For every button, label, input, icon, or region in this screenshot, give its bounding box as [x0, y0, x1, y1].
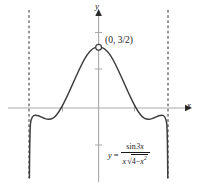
radicand: 4−x2	[131, 154, 147, 167]
x-axis-label: x	[187, 101, 191, 110]
x-axis	[8, 105, 192, 112]
plot-canvas	[0, 0, 198, 188]
open-circle-marker	[96, 44, 102, 50]
y-axis	[95, 9, 102, 182]
sin-function-name: sin	[126, 142, 135, 151]
square-root: √4−x2	[126, 154, 148, 167]
equation-numerator: sin 3x	[124, 143, 146, 152]
equation-equals: =	[114, 150, 119, 160]
sin-argument: 3x	[136, 142, 144, 151]
equation-fraction: sin 3x x√4−x2	[121, 143, 150, 167]
radicand-exponent: 2	[144, 155, 147, 161]
function-graph-figure: y x (0, 3/2) y = sin 3x x√4−x2	[0, 0, 198, 188]
y-axis-label: y	[95, 2, 99, 11]
function-equation: y = sin 3x x√4−x2	[108, 143, 150, 167]
point-label: (0, 3/2)	[105, 36, 133, 46]
equation-lhs: y	[108, 150, 112, 160]
equation-denominator: x√4−x2	[121, 153, 150, 166]
